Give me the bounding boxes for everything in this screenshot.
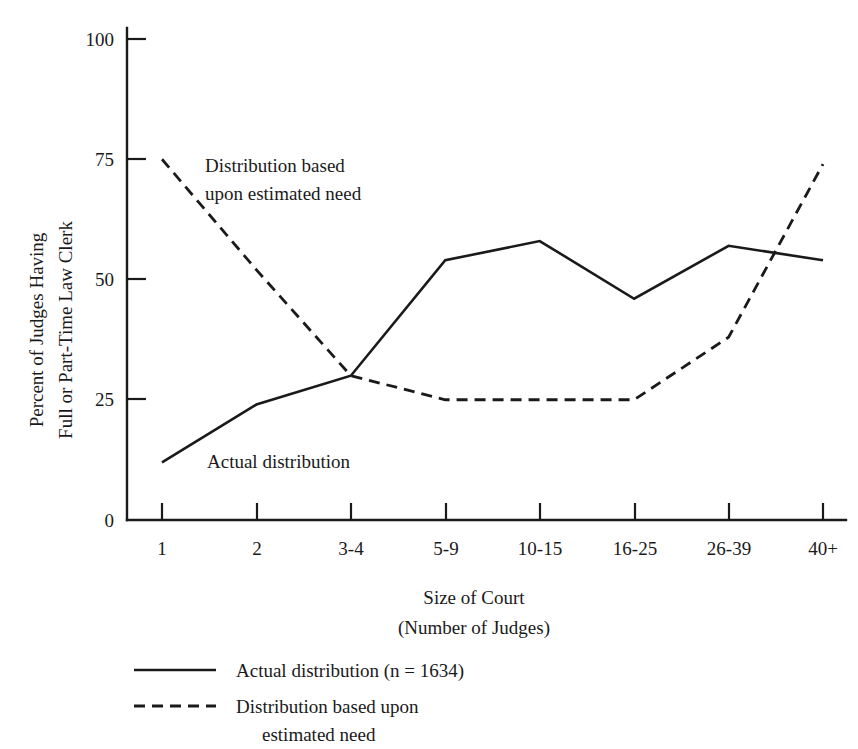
annotation-estimated-need-line1: Distribution based bbox=[205, 155, 345, 176]
legend-label-actual-distribution: Actual distribution (n = 1634) bbox=[236, 660, 464, 682]
annotation-actual-distribution: Actual distribution bbox=[207, 451, 351, 472]
y-tick-label-0: 0 bbox=[105, 510, 115, 531]
x-tick-label-16-25: 16-25 bbox=[613, 538, 657, 559]
x-axis-ticks bbox=[162, 503, 823, 520]
axes bbox=[127, 28, 846, 520]
y-axis-label: Percent of Judges Having Full or Part-Ti… bbox=[26, 221, 76, 439]
x-axis-tick-labels: 1 2 3-4 5-9 10-15 16-25 26-39 40+ bbox=[157, 538, 838, 559]
legend-item-estimated-need[interactable]: Distribution based upon estimated need bbox=[134, 696, 419, 745]
x-tick-label-2: 2 bbox=[252, 538, 262, 559]
x-tick-label-3-4: 3-4 bbox=[338, 538, 364, 559]
line-chart-canvas: Percent of Judges Having Full or Part-Ti… bbox=[0, 0, 858, 749]
series-group bbox=[162, 159, 823, 462]
x-axis-title: Size of Court (Number of Judges) bbox=[398, 587, 550, 639]
annotation-estimated-need-line2: upon estimated need bbox=[205, 183, 362, 204]
x-axis-title-line1: Size of Court bbox=[423, 587, 525, 608]
y-axis-label-line1: Percent of Judges Having bbox=[26, 232, 47, 427]
chart-legend: Actual distribution (n = 1634) Distribut… bbox=[134, 660, 464, 745]
x-tick-label-1: 1 bbox=[157, 538, 167, 559]
x-axis-title-line2: (Number of Judges) bbox=[398, 617, 550, 639]
legend-item-actual-distribution[interactable]: Actual distribution (n = 1634) bbox=[134, 660, 464, 682]
legend-label-estimated-need-line1: Distribution based upon bbox=[236, 696, 419, 717]
x-tick-label-40plus: 40+ bbox=[808, 538, 838, 559]
y-axis-tick-labels: 100 75 50 25 0 bbox=[86, 29, 115, 531]
annotation-actual-distribution-line1: Actual distribution bbox=[207, 451, 351, 472]
y-axis-label-line2: Full or Part-Time Law Clerk bbox=[55, 221, 76, 439]
chart-figure: Percent of Judges Having Full or Part-Ti… bbox=[0, 0, 858, 749]
x-tick-label-26-39: 26-39 bbox=[707, 538, 751, 559]
x-tick-label-10-15: 10-15 bbox=[518, 538, 562, 559]
y-tick-label-25: 25 bbox=[95, 389, 114, 410]
y-axis-ticks bbox=[127, 39, 146, 399]
x-tick-label-5-9: 5-9 bbox=[433, 538, 458, 559]
y-tick-label-100: 100 bbox=[86, 29, 115, 50]
y-tick-label-50: 50 bbox=[95, 269, 114, 290]
legend-label-estimated-need-line2: estimated need bbox=[262, 724, 376, 745]
annotation-estimated-need: Distribution based upon estimated need bbox=[205, 155, 362, 204]
y-tick-label-75: 75 bbox=[95, 149, 114, 170]
